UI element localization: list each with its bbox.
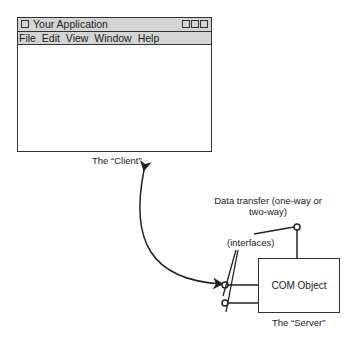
interface-icon bbox=[294, 224, 300, 230]
connector-diagram bbox=[0, 0, 356, 341]
data-transfer-arrow bbox=[140, 170, 222, 284]
